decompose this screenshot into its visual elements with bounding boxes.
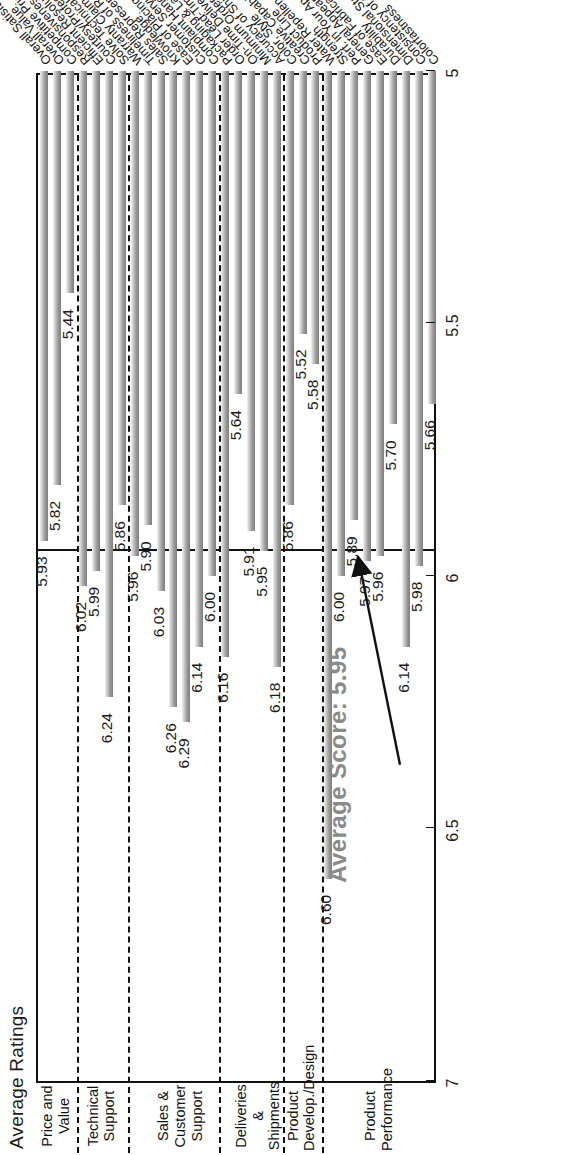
bar (92, 71, 100, 571)
axis-tick-label: 7 (444, 1079, 462, 1088)
bar-value-label: 5.89 (343, 536, 361, 566)
bar (157, 71, 165, 591)
bar (221, 71, 229, 657)
bar (415, 71, 423, 566)
bar (428, 71, 436, 404)
bar-value-label: 5.86 (111, 521, 129, 551)
bar-value-label: 5.82 (46, 501, 64, 531)
bar (195, 71, 203, 647)
chart-canvas: Average Ratings Product PerformanceProdu… (0, 0, 569, 1155)
bar-value-label: 5.90 (137, 541, 155, 571)
bar (402, 71, 410, 647)
bar-value-label: 5.97 (356, 577, 374, 607)
section-label: Product Performance (362, 1081, 395, 1151)
bar (376, 71, 384, 556)
bar-value-label: 5.52 (292, 349, 310, 379)
bar (350, 71, 358, 520)
section-separator (128, 75, 130, 1153)
bar (208, 71, 216, 576)
bar (311, 71, 319, 364)
bar-value-label: 5.86 (279, 521, 297, 551)
bar-value-label: 6.02 (72, 602, 90, 632)
bar-value-label: 6.18 (266, 683, 284, 713)
bar-value-label: 6.03 (150, 607, 168, 637)
bar (118, 71, 126, 505)
bar (53, 71, 61, 485)
average-score-annotation: Average Score: 5.95 (324, 647, 352, 883)
bar (169, 71, 177, 707)
bar-value-label: 5.96 (124, 572, 142, 602)
axis-tick (426, 575, 435, 576)
bar-value-label: 5.64 (227, 410, 245, 440)
bar (337, 71, 345, 576)
bar-value-label: 6.14 (188, 663, 206, 693)
section-label: Product Develop./Design (285, 1081, 318, 1151)
bar-value-label: 6.14 (395, 663, 413, 693)
axis-tick (426, 70, 435, 71)
bar-value-label: 6.00 (330, 592, 348, 622)
section-label: Sales & Customer Support (155, 1081, 205, 1151)
section-label: Technical Support (85, 1081, 118, 1151)
section-label: Price and Value (39, 1081, 72, 1151)
bar-value-label: 6.16 (214, 673, 232, 703)
section-separator (283, 75, 285, 1153)
rotated-page-wrapper: Average Ratings Product PerformanceProdu… (0, 0, 569, 1155)
bar (105, 71, 113, 697)
axis-tick-label: 5 (444, 69, 462, 78)
bar (66, 71, 74, 293)
axis-tick (426, 1080, 435, 1081)
page-title: Average Ratings (6, 1006, 28, 1149)
bar-value-label: 5.58 (304, 380, 322, 410)
bar-value-label: 5.66 (421, 420, 439, 450)
bar-value-label: 5.70 (382, 440, 400, 470)
bar (299, 71, 307, 334)
bar (260, 71, 268, 551)
bar-value-label: 6.60 (317, 895, 335, 925)
bar-value-label: 6.00 (201, 592, 219, 622)
bar (79, 71, 87, 586)
axis-tick-label: 5.5 (444, 314, 462, 336)
bar (363, 71, 371, 561)
bar (131, 71, 139, 556)
axis-tick-label: 6.5 (444, 819, 462, 841)
bar (389, 71, 397, 425)
section-label: Deliveries & Shipments (233, 1081, 283, 1151)
bar-value-label: 5.98 (408, 582, 426, 612)
axis-tick-label: 6 (444, 574, 462, 583)
bar (273, 71, 281, 667)
bar-value-label: 5.44 (59, 309, 77, 339)
bar (182, 71, 190, 722)
bar-value-label: 5.93 (33, 556, 51, 586)
axis-tick (426, 828, 435, 829)
bar-value-label: 6.24 (98, 713, 116, 743)
bar-value-label: 5.91 (240, 546, 258, 576)
bar (247, 71, 255, 531)
bar (40, 71, 48, 541)
axis-tick (426, 323, 435, 324)
bar (286, 71, 294, 505)
bar-value-label: 6.26 (162, 723, 180, 753)
bar (144, 71, 152, 526)
bar (234, 71, 242, 394)
section-separator (322, 75, 324, 1153)
